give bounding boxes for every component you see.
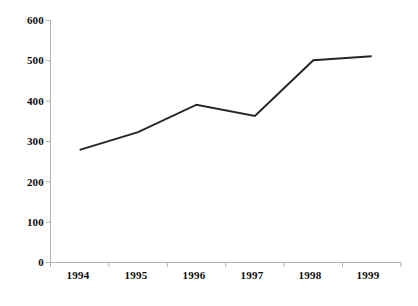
line-chart: 600 500 400 300 200 100 0 1994 1995 1996… [0, 0, 418, 306]
y-axis-ticks [46, 21, 51, 263]
plot-area [0, 0, 418, 306]
x-axis-ticks [51, 263, 401, 268]
data-series-line [80, 56, 372, 150]
